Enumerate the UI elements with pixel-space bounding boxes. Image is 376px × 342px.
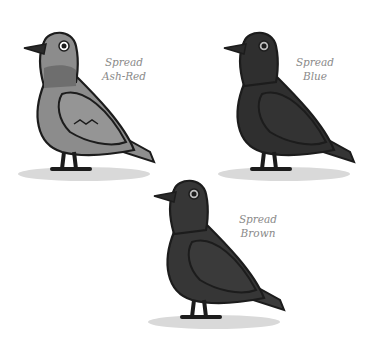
label-line-2: Blue (290, 69, 340, 83)
label-line-2: Brown (230, 226, 286, 240)
label-spread-ash-red: Spread Ash-Red (96, 55, 152, 83)
label-line-1: Spread (96, 55, 152, 69)
label-line-1: Spread (230, 212, 286, 226)
pigeon-spread-ash-red (14, 24, 164, 184)
label-spread-brown: Spread Brown (230, 212, 286, 240)
label-line-1: Spread (290, 55, 340, 69)
pigeon-spread-blue (214, 24, 364, 184)
label-spread-blue: Spread Blue (290, 55, 340, 83)
pigeon-spread-brown (144, 172, 294, 332)
label-line-2: Ash-Red (96, 69, 152, 83)
